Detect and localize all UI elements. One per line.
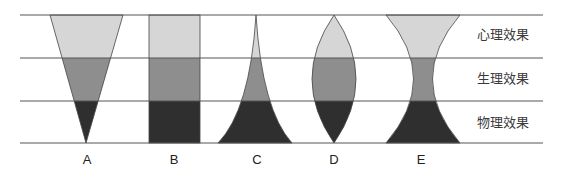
column-label-b: B	[170, 152, 179, 167]
column-label-a: A	[83, 152, 92, 167]
effects-diagram: 心理效果 生理效果 物理效果 A B C D E	[0, 0, 568, 174]
column-label-c: C	[252, 152, 261, 167]
band-label-physical: 物理效果	[477, 115, 529, 130]
column-label-e: E	[417, 152, 426, 167]
band-label-psychological: 心理效果	[477, 27, 529, 42]
column-label-d: D	[329, 152, 338, 167]
band-label-physiological: 生理效果	[477, 71, 529, 86]
